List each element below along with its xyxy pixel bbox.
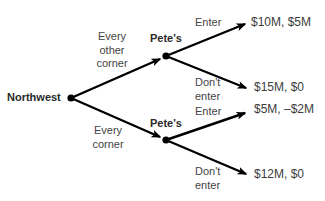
upper-petes-node-label: Pete's — [150, 32, 182, 46]
root-node-label: Northwest — [7, 91, 61, 105]
lower-petes-node-label: Pete's — [150, 117, 182, 131]
branch-label-line: Enter — [195, 16, 221, 30]
branch-label-line: corner — [88, 57, 136, 71]
branch-label-line: other — [88, 44, 136, 58]
branch-label-lower-enter: Enter — [195, 105, 221, 119]
branch-label-line: Every — [88, 30, 136, 44]
branch-label-line: Don't — [195, 76, 220, 90]
branch-label-every-corner: Every corner — [84, 124, 132, 151]
payoff-lower-dont-enter: $12M, $0 — [254, 168, 304, 182]
branch-label-line: Every — [84, 124, 132, 138]
lower-petes-node-dot — [162, 136, 169, 143]
branch-label-lower-dont-enter: Don't enter — [195, 165, 220, 192]
branch-label-every-other-corner: Every other corner — [88, 30, 136, 71]
branch-label-line: Enter — [195, 105, 221, 119]
upper-petes-node-dot — [162, 52, 169, 59]
branch-label-upper-enter: Enter — [195, 16, 221, 30]
branch-label-upper-dont-enter: Don't enter — [195, 76, 220, 103]
payoff-upper-enter: $10M, $5M — [251, 16, 311, 30]
payoff-upper-dont-enter: $15M, $0 — [254, 81, 304, 95]
payoff-lower-enter: $5M, –$2M — [254, 103, 314, 117]
branch-label-line: enter — [195, 179, 220, 193]
branch-label-line: corner — [84, 138, 132, 152]
branch-label-line: enter — [195, 90, 220, 104]
branch-label-line: Don't — [195, 165, 220, 179]
game-tree-diagram: Northwest Every other corner Every corne… — [0, 0, 325, 201]
root-node-dot — [67, 94, 74, 101]
